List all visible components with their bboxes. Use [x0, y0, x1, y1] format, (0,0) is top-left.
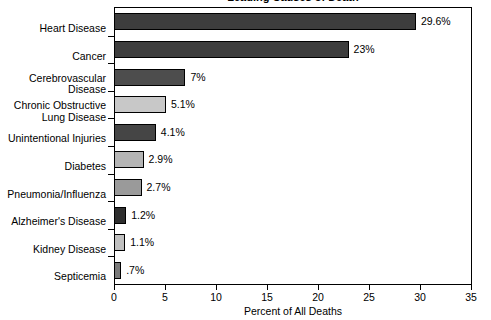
bar-value-label: 2.9% — [149, 154, 173, 165]
x-axis-tick-label: 0 — [99, 291, 129, 303]
x-axis-tick-label: 5 — [150, 291, 180, 303]
x-axis-title: Percent of All Deaths — [114, 305, 472, 317]
bar — [114, 124, 156, 141]
x-axis-tick-label: 30 — [405, 291, 435, 303]
x-axis-tick-label: 20 — [303, 291, 333, 303]
bar-value-label: 4.1% — [161, 127, 185, 138]
x-axis-tick-label: 25 — [354, 291, 384, 303]
x-axis-tick-label: 10 — [201, 291, 231, 303]
x-axis-tick — [420, 285, 421, 290]
x-axis-tick — [369, 285, 370, 290]
bar — [114, 234, 125, 251]
y-axis-tick — [108, 229, 114, 230]
bar — [114, 179, 142, 196]
x-axis-tick — [216, 285, 217, 290]
x-axis-tick-label: 15 — [252, 291, 282, 303]
bar — [114, 13, 416, 30]
bars-layer: 29.6%23%7%5.1%4.1%2.9%2.7%1.2%1.1%.7% — [0, 0, 491, 320]
y-axis-tick — [108, 36, 114, 37]
bar — [114, 96, 166, 113]
x-axis-tick — [318, 285, 319, 290]
y-axis-tick — [108, 174, 114, 175]
bar-value-label: 1.1% — [130, 237, 154, 248]
bar-value-label: .7% — [126, 265, 144, 276]
y-axis-tick — [108, 146, 114, 147]
bar-value-label: 2.7% — [147, 182, 171, 193]
y-axis-tick — [108, 91, 114, 92]
y-axis-tick — [108, 63, 114, 64]
y-axis-tick — [108, 201, 114, 202]
bar — [114, 69, 185, 86]
bar-value-label: 5.1% — [171, 99, 195, 110]
y-axis-tick — [108, 256, 114, 257]
bar-value-label: 23% — [354, 44, 375, 55]
bar — [114, 262, 121, 279]
x-axis-tick — [114, 285, 115, 290]
y-axis-tick — [108, 118, 114, 119]
bar-value-label: 7% — [190, 72, 205, 83]
bar-value-label: 29.6% — [421, 16, 451, 27]
bar-chart: Leading Causes of Death Heart DiseaseCan… — [0, 0, 491, 320]
x-axis-tick — [165, 285, 166, 290]
bar-value-label: 1.2% — [131, 210, 155, 221]
bar — [114, 207, 126, 224]
x-axis-tick-label: 35 — [456, 291, 486, 303]
x-axis-tick — [471, 285, 472, 290]
bar — [114, 151, 144, 168]
x-axis-tick — [267, 285, 268, 290]
bar — [114, 41, 349, 58]
